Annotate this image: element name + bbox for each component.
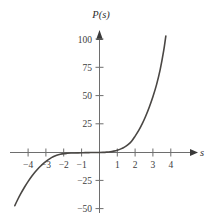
figure-background <box>0 0 209 217</box>
x-tick-label: 4 <box>168 160 173 170</box>
y-tick-label: −25 <box>77 176 92 186</box>
x-tick-label: −1 <box>77 160 87 170</box>
x-axis-title: s <box>200 147 204 158</box>
y-tick-label: 25 <box>83 119 93 129</box>
y-tick-label: 50 <box>83 91 93 101</box>
y-tick-label: 75 <box>83 63 93 73</box>
y-axis-title: P(s) <box>91 9 110 21</box>
chart-figure: −4 −3 −2 −1 1 2 3 4 100 75 50 25 −25 −50… <box>0 0 209 217</box>
x-tick-label: 1 <box>115 160 120 170</box>
plot-area: −4 −3 −2 −1 1 2 3 4 100 75 50 25 −25 −50… <box>0 0 209 217</box>
y-tick-label: 100 <box>78 35 93 45</box>
y-tick-label: −50 <box>77 204 92 214</box>
x-tick-label: −4 <box>23 160 33 170</box>
x-tick-label: −2 <box>59 160 69 170</box>
x-tick-label: 3 <box>151 160 156 170</box>
x-tick-label: 2 <box>133 160 138 170</box>
